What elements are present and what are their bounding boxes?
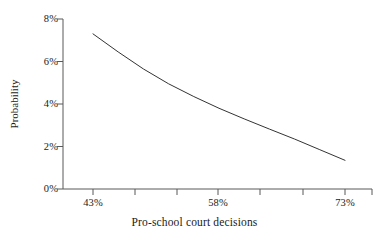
y-axis-title: Probability bbox=[8, 79, 20, 128]
chart-container: 8% 6% 4% 2% 0% 43% 58% 73% Pro-school co… bbox=[0, 0, 389, 240]
plot-area: Probability bbox=[0, 0, 389, 240]
data-series-line bbox=[93, 34, 345, 160]
